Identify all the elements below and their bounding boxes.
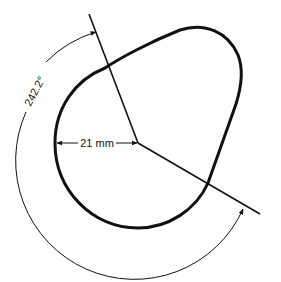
closing-radial-line bbox=[138, 143, 260, 214]
cam-diagram: 242.2° 21 mm bbox=[0, 0, 281, 282]
cam-outline bbox=[55, 27, 241, 228]
duration-angle-label: 242.2° bbox=[22, 74, 48, 108]
opening-radial-line bbox=[89, 14, 138, 143]
angle-arc-upper bbox=[46, 32, 96, 62]
angle-arc-lower bbox=[16, 112, 243, 279]
base-radius-label: 21 mm bbox=[80, 137, 114, 149]
